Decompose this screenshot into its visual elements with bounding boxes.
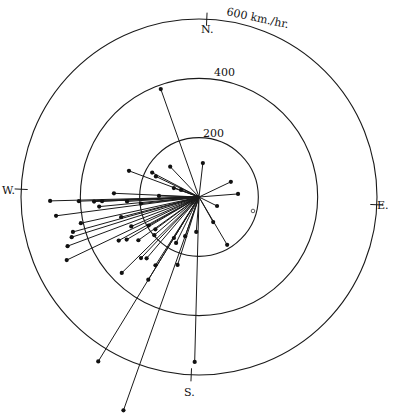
- vector-point: [159, 87, 163, 91]
- tick-s: [191, 368, 192, 381]
- vector-point: [201, 161, 205, 165]
- vector-point: [121, 408, 125, 412]
- ring-label-200: 200: [203, 127, 224, 140]
- vector-point: [48, 199, 52, 203]
- vector-point: [92, 199, 96, 203]
- vector-point: [144, 256, 148, 260]
- vector-point: [120, 271, 124, 275]
- vector-point: [96, 359, 100, 363]
- open-marker: [251, 209, 255, 213]
- vector-point: [97, 205, 101, 209]
- vector-point: [127, 169, 131, 173]
- vector-point: [168, 165, 172, 169]
- vector-point: [236, 192, 240, 196]
- vector-point: [146, 278, 150, 282]
- ring-label-400: 400: [214, 66, 235, 79]
- vector-point: [147, 223, 151, 227]
- vector-point: [153, 227, 157, 231]
- vector-point: [136, 238, 140, 242]
- vector-point: [215, 204, 219, 208]
- vector-point: [183, 234, 187, 238]
- vector-point: [229, 180, 233, 184]
- vector-point: [174, 241, 178, 245]
- vector-point: [194, 230, 198, 234]
- vector-line: [114, 193, 199, 197]
- vector-point: [153, 263, 157, 267]
- vector-point: [112, 191, 116, 195]
- vector-point: [125, 238, 129, 242]
- vector-point: [139, 256, 143, 260]
- ring-label-600: 600 km./hr.: [225, 5, 290, 31]
- vector-point: [71, 230, 75, 234]
- vector-point: [139, 202, 143, 206]
- vector-point: [54, 214, 58, 218]
- vector-point: [100, 199, 104, 203]
- vector-point: [150, 171, 154, 175]
- vector-point: [154, 174, 158, 178]
- vector-point: [70, 235, 74, 239]
- vector-point: [157, 194, 161, 198]
- vector-line: [170, 167, 199, 197]
- vector-point: [179, 188, 183, 192]
- vector-line: [161, 89, 199, 197]
- vector-point: [225, 243, 229, 247]
- vector-point: [65, 244, 69, 248]
- cardinal-label-n: N.: [201, 23, 213, 36]
- vector-line: [199, 163, 203, 197]
- tick-w: [15, 189, 28, 190]
- vector-point: [77, 199, 81, 203]
- vector-point: [119, 215, 123, 219]
- vector-point: [65, 258, 69, 262]
- vector-point: [125, 199, 129, 203]
- vector-point: [175, 263, 179, 267]
- cardinal-label-s: S.: [184, 386, 195, 399]
- polar-wind-chart: 200 400 600 km./hr. N. E. S. W.: [0, 0, 394, 420]
- vector-point: [79, 221, 83, 225]
- vector-point: [172, 186, 176, 190]
- vector-point: [129, 224, 133, 228]
- vector-point: [152, 233, 156, 237]
- vector-point: [172, 236, 176, 240]
- vector-point: [193, 360, 197, 364]
- cardinal-label-e: E.: [377, 199, 389, 212]
- vector-point: [211, 220, 215, 224]
- vector-point: [117, 238, 121, 242]
- cardinal-label-w: W.: [2, 184, 15, 197]
